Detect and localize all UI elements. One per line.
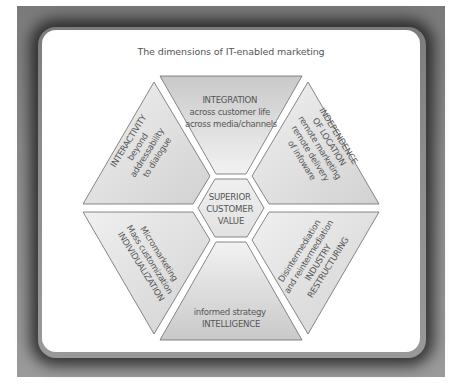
hexagon-diagram: SUPERIOR CUSTOMER VALUE INTEGRATION acro…: [0, 0, 458, 390]
